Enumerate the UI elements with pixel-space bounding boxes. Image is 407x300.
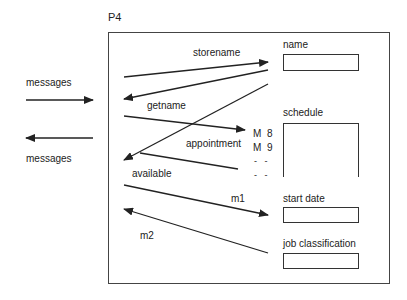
message-arrows xyxy=(0,0,407,300)
available-arrow xyxy=(124,84,268,160)
m1-arrow xyxy=(124,185,268,215)
m2-arrow xyxy=(124,209,268,253)
available-return-line xyxy=(140,153,238,169)
